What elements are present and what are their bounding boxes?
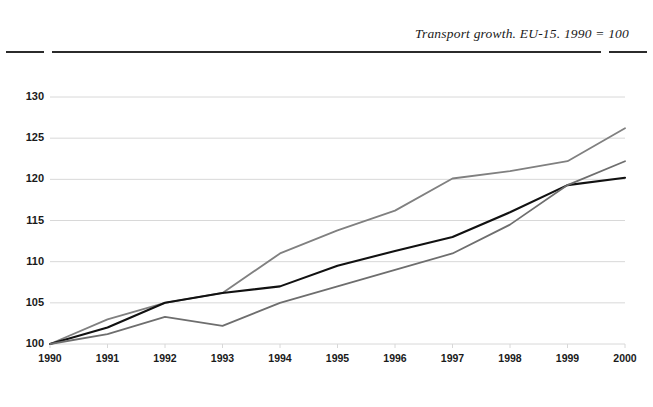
y-axis-tick-label: 110 [14,256,44,267]
x-axis-tick-label: 1994 [257,353,303,364]
series-paths [50,128,625,344]
x-axis-ticks [50,344,625,348]
y-axis-tick-label: 120 [14,173,44,184]
x-axis-tick-label: 1999 [545,353,591,364]
y-axis-tick-label: 130 [14,91,44,102]
gridlines [50,97,625,344]
line-chart [0,0,653,407]
y-axis-tick-label: 105 [14,297,44,308]
series-line-series-lower [50,161,625,344]
y-axis-tick-label: 115 [14,215,44,226]
y-axis-tick-label: 100 [14,338,44,349]
x-axis-tick-label: 1990 [27,353,73,364]
x-axis-tick-label: 1992 [142,353,188,364]
x-axis-tick-label: 1993 [200,353,246,364]
x-axis-tick-label: 1996 [372,353,418,364]
x-axis-tick-label: 1991 [85,353,131,364]
x-axis-tick-label: 2000 [602,353,648,364]
series-line-series-upper [50,128,625,344]
x-axis-tick-label: 1997 [430,353,476,364]
series-line-series-middle [50,178,625,344]
figure-root: Transport growth. EU-15. 1990 = 100 1001… [0,0,653,407]
x-axis-tick-label: 1998 [487,353,533,364]
y-axis-tick-label: 125 [14,132,44,143]
x-axis-tick-label: 1995 [315,353,361,364]
